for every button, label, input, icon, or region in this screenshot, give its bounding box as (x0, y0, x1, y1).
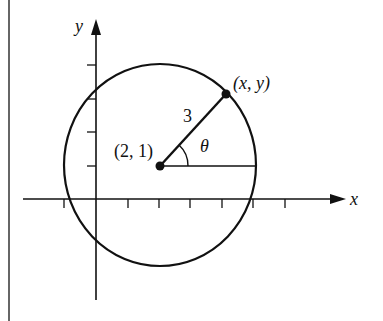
x-axis-label: x (349, 189, 358, 209)
center-point (156, 162, 165, 171)
angle-arc (179, 145, 188, 166)
radius-line (160, 94, 226, 166)
radius-label: 3 (183, 106, 192, 126)
y-axis-label: y (73, 16, 83, 36)
circle-parametric-diagram: x y (2, 1) (x, y) 3 θ (0, 0, 383, 321)
y-axis-arrow-icon (91, 19, 101, 35)
x-axis-ticks (64, 199, 285, 208)
x-axis-arrow-icon (330, 194, 346, 204)
y-axis: y (73, 16, 101, 300)
point-label: (x, y) (233, 73, 270, 94)
circle-point (222, 90, 231, 99)
y-axis-ticks (87, 65, 96, 166)
angle-label: θ (200, 136, 209, 156)
center-label: (2, 1) (114, 141, 153, 162)
